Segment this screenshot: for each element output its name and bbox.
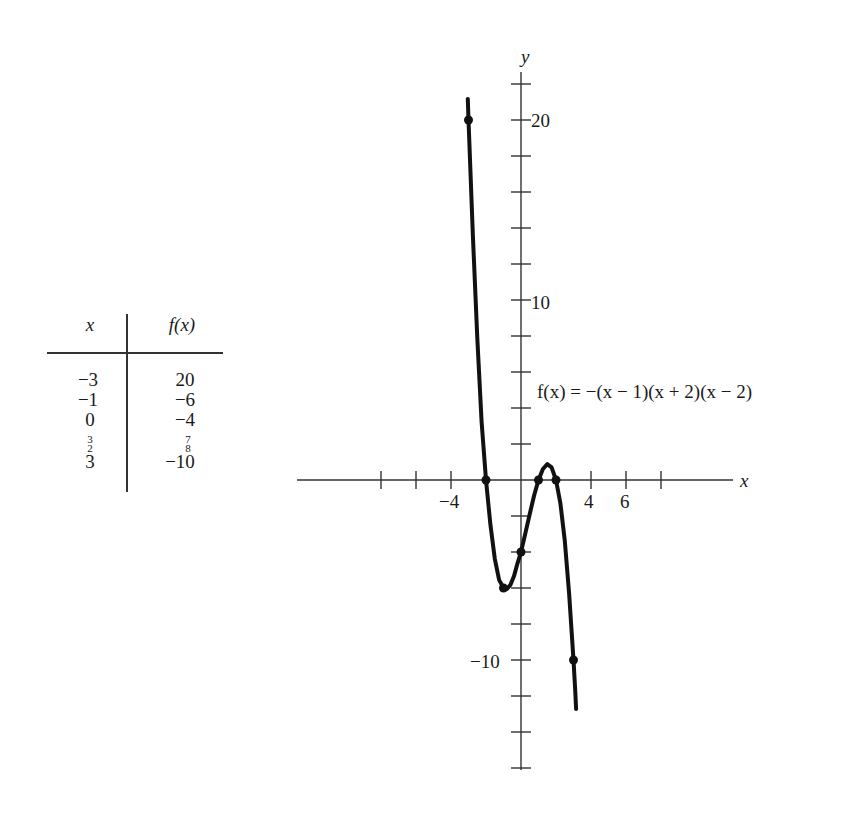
data-point bbox=[552, 476, 561, 485]
data-point bbox=[482, 476, 491, 485]
data-point bbox=[569, 656, 578, 665]
data-point bbox=[517, 548, 526, 557]
y-tick-label: 20 bbox=[531, 110, 550, 131]
axes bbox=[297, 72, 733, 770]
x-axis-label: x bbox=[739, 470, 749, 491]
x-tick-label: −4 bbox=[439, 491, 460, 512]
y-tick-label: 10 bbox=[531, 292, 550, 313]
function-curve bbox=[468, 99, 576, 709]
data-point bbox=[499, 584, 508, 593]
y-tick-label: −10 bbox=[470, 651, 500, 672]
equation-label: f(x) = −(x − 1)(x + 2)(x − 2) bbox=[537, 381, 752, 403]
y-axis-label: y bbox=[519, 46, 530, 67]
function-graph: x y −4 4 6 20 10 −10 f(x) = −(x − 1)(x +… bbox=[0, 0, 860, 815]
x-tick-label: 6 bbox=[620, 491, 630, 512]
data-point bbox=[464, 116, 473, 125]
data-point bbox=[534, 476, 543, 485]
x-tick-label: 4 bbox=[584, 491, 594, 512]
